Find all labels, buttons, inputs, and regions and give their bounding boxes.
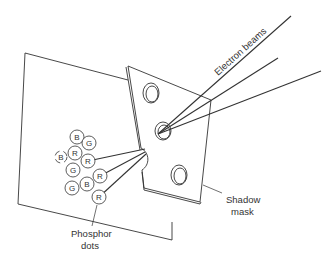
phosphor-dots-label-2: dots bbox=[81, 240, 99, 251]
dot-label: B bbox=[74, 133, 79, 142]
shadow-mask-label-2: mask bbox=[231, 206, 254, 217]
dot-label: G bbox=[70, 166, 76, 175]
dot-label: B bbox=[84, 180, 89, 189]
phosphor-dots-label: Phosphor bbox=[71, 228, 112, 239]
dot-label: G bbox=[69, 184, 75, 193]
shadow-mask-label: Shadow bbox=[226, 194, 260, 205]
dot-label: G bbox=[86, 139, 92, 148]
dot-label: R bbox=[97, 172, 103, 181]
phosphor-leader-line bbox=[92, 205, 97, 226]
dot-label: R bbox=[96, 193, 102, 202]
shadow-mask-plate bbox=[126, 66, 211, 204]
dot-label: R bbox=[85, 157, 91, 166]
dot-label: B bbox=[58, 153, 63, 162]
mask-leader-line bbox=[203, 185, 222, 193]
crt-shadow-mask-diagram: B G R B R G R G B R Electron beams Shado… bbox=[0, 0, 336, 261]
dot-label: R bbox=[72, 149, 78, 158]
